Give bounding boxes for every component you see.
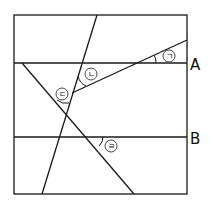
outer-frame — [14, 15, 187, 194]
angle-arc-3 — [57, 100, 69, 103]
angle-arc-4 — [99, 137, 103, 146]
angle-label-4: ㄹ — [108, 142, 115, 151]
angle-label-3: ㄷ — [59, 90, 66, 99]
angle-label-1: ㄱ — [166, 52, 173, 61]
angle-arc-1 — [154, 55, 156, 63]
diagonal-transversal — [22, 63, 134, 194]
line-a-label: A — [190, 56, 201, 74]
angle-label-2: ㄴ — [88, 70, 95, 79]
line-b-label: B — [190, 130, 200, 148]
angle-arc-2 — [78, 76, 86, 86]
steep-transversal — [42, 15, 97, 194]
geometry-diagram: ㄱ ㄴ ㄷ ㄹ A B — [0, 0, 210, 205]
ray-line — [72, 40, 187, 93]
